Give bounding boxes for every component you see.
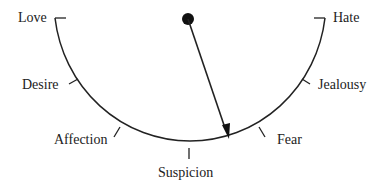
label-affection: Affection (54, 133, 107, 147)
label-desire: Desire (22, 78, 59, 92)
label-hate: Hate (333, 11, 359, 25)
gauge-graphic (0, 0, 383, 189)
tick-affection (114, 127, 120, 137)
label-suspicion: Suspicion (158, 166, 213, 180)
label-love: Love (18, 11, 47, 25)
tick-jealousy (302, 79, 310, 84)
gauge-arc (55, 18, 325, 141)
label-fear: Fear (277, 133, 302, 147)
needle (188, 19, 225, 128)
tick-desire (69, 79, 78, 84)
label-jealousy: Jealousy (318, 78, 366, 92)
tick-fear (259, 127, 265, 137)
